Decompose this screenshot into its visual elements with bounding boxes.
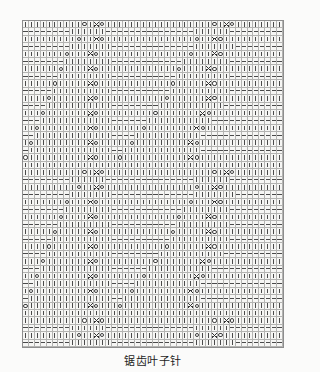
- stitch-symbol-icon: [255, 244, 256, 249]
- stitch-symbol-icon: [184, 281, 185, 286]
- stitch-symbol-icon: [167, 229, 168, 234]
- stitch-symbol-icon: [171, 179, 175, 180]
- stitch-symbol-icon: [184, 170, 185, 175]
- stitch-symbol-icon: [131, 81, 132, 86]
- stitch-symbol-icon: [124, 209, 128, 210]
- stitch-symbol-icon: [238, 229, 239, 234]
- stitch-symbol-icon: [232, 140, 233, 145]
- chart-grid: [23, 21, 283, 347]
- stitch-symbol-icon: [155, 289, 156, 294]
- stitch-symbol-icon: [94, 274, 98, 278]
- stitch-symbol-icon: [149, 52, 150, 57]
- stitch-symbol-icon: [230, 268, 234, 269]
- stitch-symbol-icon: [49, 303, 50, 308]
- stitch-symbol-icon: [155, 66, 156, 71]
- stitch-symbol-icon: [190, 215, 191, 220]
- stitch-symbol-icon: [190, 252, 191, 257]
- stitch-symbol-icon: [200, 111, 205, 116]
- stitch-symbol-icon: [72, 163, 73, 168]
- stitch-symbol-icon: [66, 207, 67, 212]
- cell-knit: [277, 243, 283, 250]
- cell-purl: [277, 73, 283, 80]
- stitch-symbol-icon: [54, 333, 55, 338]
- stitch-symbol-icon: [196, 259, 197, 264]
- stitch-symbol-icon: [118, 120, 122, 121]
- stitch-symbol-icon: [125, 229, 126, 234]
- stitch-symbol-icon: [238, 111, 239, 116]
- stitch-symbol-icon: [114, 155, 115, 160]
- stitch-symbol-icon: [232, 289, 233, 294]
- stitch-symbol-icon: [261, 96, 262, 101]
- stitch-symbol-icon: [196, 296, 197, 301]
- stitch-symbol-icon: [273, 111, 274, 116]
- stitch-symbol-icon: [49, 215, 50, 220]
- stitch-symbol-icon: [155, 318, 156, 323]
- stitch-symbol-icon: [142, 209, 146, 210]
- stitch-symbol-icon: [23, 253, 27, 254]
- stitch-symbol-icon: [184, 296, 185, 301]
- stitch-symbol-icon: [25, 96, 26, 101]
- stitch-symbol-icon: [66, 148, 67, 153]
- stitch-symbol-icon: [66, 22, 67, 27]
- cell-purl: [277, 191, 283, 198]
- stitch-symbol-icon: [60, 303, 61, 308]
- stitch-symbol-icon: [119, 22, 120, 27]
- stitch-symbol-icon: [254, 179, 258, 180]
- stitch-symbol-icon: [96, 326, 97, 331]
- stitch-symbol-icon: [196, 103, 197, 108]
- stitch-symbol-icon: [249, 215, 250, 220]
- stitch-symbol-icon: [218, 185, 222, 189]
- stitch-symbol-icon: [124, 268, 128, 269]
- stitch-symbol-icon: [254, 253, 258, 254]
- stitch-symbol-icon: [230, 209, 234, 210]
- stitch-symbol-icon: [206, 244, 211, 249]
- stitch-symbol-icon: [212, 51, 217, 56]
- stitch-symbol-icon: [190, 74, 191, 79]
- stitch-symbol-icon: [279, 244, 280, 249]
- stitch-symbol-icon: [177, 46, 181, 47]
- stitch-symbol-icon: [202, 289, 203, 294]
- stitch-symbol-icon: [41, 105, 45, 106]
- stitch-symbol-icon: [155, 296, 156, 301]
- stitch-symbol-icon: [190, 207, 191, 212]
- stitch-symbol-icon: [60, 296, 61, 301]
- stitch-symbol-icon: [53, 224, 57, 225]
- stitch-symbol-icon: [159, 194, 163, 195]
- stitch-symbol-icon: [249, 274, 250, 279]
- stitch-symbol-icon: [84, 118, 85, 123]
- stitch-symbol-icon: [72, 89, 73, 94]
- stitch-symbol-icon: [47, 239, 51, 240]
- stitch-symbol-icon: [153, 90, 157, 91]
- stitch-symbol-icon: [53, 31, 57, 32]
- stitch-symbol-icon: [155, 52, 156, 57]
- stitch-symbol-icon: [66, 185, 67, 190]
- stitch-symbol-icon: [102, 89, 103, 94]
- stitch-symbol-icon: [60, 252, 61, 257]
- stitch-symbol-icon: [114, 259, 115, 264]
- stitch-symbol-icon: [155, 311, 156, 316]
- cell-knit: [277, 169, 283, 176]
- stitch-symbol-icon: [125, 170, 126, 175]
- stitch-symbol-icon: [279, 215, 280, 220]
- stitch-symbol-icon: [47, 327, 51, 328]
- stitch-symbol-icon: [206, 96, 211, 101]
- stitch-symbol-icon: [102, 340, 103, 345]
- stitch-symbol-icon: [238, 81, 239, 86]
- stitch-symbol-icon: [47, 224, 51, 225]
- stitch-symbol-icon: [54, 126, 55, 131]
- stitch-symbol-icon: [72, 74, 73, 79]
- stitch-symbol-icon: [161, 266, 162, 271]
- stitch-symbol-icon: [155, 155, 156, 160]
- stitch-symbol-icon: [230, 253, 234, 254]
- stitch-symbol-icon: [184, 163, 185, 168]
- stitch-symbol-icon: [179, 37, 180, 42]
- stitch-symbol-icon: [260, 105, 264, 106]
- cell-purl: [277, 280, 283, 287]
- stitch-symbol-icon: [201, 298, 205, 299]
- stitch-symbol-icon: [272, 253, 276, 254]
- cell-knit: [277, 51, 283, 58]
- stitch-symbol-icon: [207, 283, 211, 284]
- stitch-symbol-icon: [43, 229, 44, 234]
- stitch-symbol-icon: [54, 200, 55, 205]
- stitch-symbol-icon: [37, 66, 38, 71]
